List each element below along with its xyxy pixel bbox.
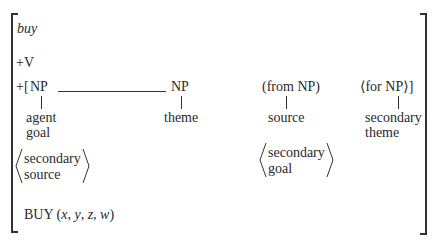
connector-line	[58, 91, 166, 92]
role-source: source	[268, 111, 305, 125]
secondary-goal-line1: secondary	[268, 146, 325, 160]
semantic-predicate: BUY	[24, 207, 53, 222]
angle-bracket-left-icon	[258, 142, 268, 178]
link-secondary-theme	[398, 96, 399, 109]
role-goal: goal	[26, 126, 50, 140]
semantic-representation: BUY (x, y, z, w)	[24, 208, 114, 222]
left-bracket	[11, 13, 18, 233]
arg-np-1: NP	[30, 80, 48, 94]
var-y: y	[74, 207, 80, 222]
entry-word: buy	[17, 22, 37, 36]
frame-prefix: +[	[16, 80, 29, 94]
angle-bracket-right-icon	[81, 148, 91, 184]
angle-bracket-right-icon	[325, 142, 335, 178]
var-z: z	[88, 207, 93, 222]
role-secondary-theme: theme	[365, 126, 399, 140]
category-feature: +V	[16, 56, 34, 70]
link-source	[286, 96, 287, 109]
link-agent	[41, 96, 42, 109]
arg-np-2: NP	[171, 80, 189, 94]
arg-from-np: (from NP)	[262, 80, 320, 94]
secondary-source-line2: source	[24, 168, 61, 182]
role-agent: agent	[26, 111, 56, 125]
secondary-goal-line2: goal	[268, 162, 292, 176]
role-theme: theme	[164, 111, 198, 125]
link-theme	[181, 96, 182, 109]
arg-for-np: ⟨for NP⟩]	[360, 80, 413, 94]
angle-bracket-left-icon	[14, 148, 24, 184]
var-x: x	[61, 207, 67, 222]
semantic-close: )	[109, 207, 114, 222]
secondary-source-line1: secondary	[24, 152, 81, 166]
role-secondary: secondary	[365, 111, 422, 125]
